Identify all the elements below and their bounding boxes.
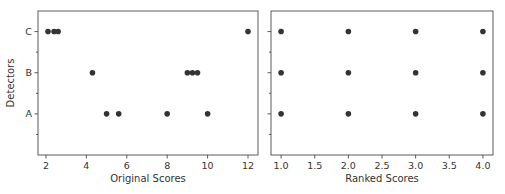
data-point-a	[278, 111, 284, 117]
data-point-c	[245, 29, 251, 35]
y-axis-label: Detectors	[5, 59, 16, 108]
data-point-b	[480, 70, 486, 76]
y-tick-label: C	[25, 26, 32, 37]
data-point-b	[278, 70, 284, 76]
x-tick-label: 4	[83, 160, 89, 171]
figure: 24681012ABCOriginal ScoresDetectors 1.01…	[0, 0, 505, 194]
x-axis-label: Original Scores	[110, 173, 186, 184]
x-tick-label: 3.5	[442, 160, 457, 171]
data-point-b	[90, 70, 96, 76]
plot-frame	[38, 11, 258, 155]
x-tick-label: 1.0	[274, 160, 289, 171]
data-point-b	[195, 70, 201, 76]
data-point-c	[413, 29, 419, 35]
data-point-b	[346, 70, 352, 76]
data-point-b	[413, 70, 419, 76]
x-tick-label: 2.0	[341, 160, 356, 171]
data-point-a	[346, 111, 352, 117]
data-point-a	[413, 111, 419, 117]
x-tick-label: 4.0	[475, 160, 490, 171]
x-tick-label: 12	[242, 160, 254, 171]
data-point-a	[116, 111, 122, 117]
x-tick-label: 10	[202, 160, 214, 171]
data-point-a	[480, 111, 486, 117]
data-point-c	[346, 29, 352, 35]
data-point-b	[185, 70, 191, 76]
data-point-c	[55, 29, 61, 35]
x-tick-label: 2	[43, 160, 49, 171]
x-tick-label: 3.0	[408, 160, 423, 171]
data-point-a	[104, 111, 110, 117]
data-point-a	[164, 111, 170, 117]
x-tick-label: 8	[164, 160, 170, 171]
data-point-a	[205, 111, 211, 117]
plot-frame	[271, 11, 493, 155]
data-point-c	[480, 29, 486, 35]
y-tick-label: B	[25, 67, 32, 78]
data-point-b	[190, 70, 196, 76]
x-axis-label: Ranked Scores	[345, 173, 419, 184]
y-tick-label: A	[26, 108, 33, 119]
x-tick-label: 2.5	[374, 160, 389, 171]
data-point-c	[278, 29, 284, 35]
x-tick-label: 6	[124, 160, 130, 171]
subplot-original-scores: 24681012ABCOriginal ScoresDetectors	[5, 11, 258, 184]
x-tick-label: 1.5	[307, 160, 322, 171]
subplot-ranked-scores: 1.01.52.02.53.03.54.0Ranked Scores	[268, 11, 494, 184]
data-point-c	[45, 29, 51, 35]
